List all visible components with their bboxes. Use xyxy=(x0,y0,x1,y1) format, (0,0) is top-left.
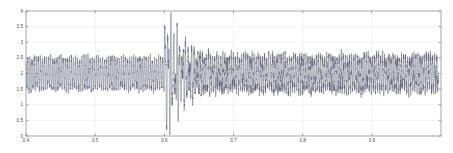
svg-text:1.5: 1.5 xyxy=(17,87,24,92)
svg-text:0.4: 0.4 xyxy=(23,138,30,143)
chart-container: 00.511.522.533.540.40.50.60.70.80.9 xyxy=(0,0,453,153)
svg-text:1: 1 xyxy=(20,102,23,107)
svg-text:0.5: 0.5 xyxy=(92,138,99,143)
svg-text:2.5: 2.5 xyxy=(17,55,24,60)
svg-text:3.5: 3.5 xyxy=(17,24,24,29)
grid-lines xyxy=(26,11,441,136)
svg-text:0.9: 0.9 xyxy=(369,138,376,143)
svg-text:4: 4 xyxy=(20,9,23,14)
svg-text:2: 2 xyxy=(20,71,23,76)
svg-text:0.7: 0.7 xyxy=(230,138,237,143)
svg-text:0.8: 0.8 xyxy=(299,138,306,143)
svg-text:3: 3 xyxy=(20,40,23,45)
signal-plot: 00.511.522.533.540.40.50.60.70.80.9 xyxy=(0,0,453,153)
tick-labels: 00.511.522.533.540.40.50.60.70.80.9 xyxy=(17,9,376,143)
svg-text:0.6: 0.6 xyxy=(161,138,168,143)
svg-text:0.5: 0.5 xyxy=(17,118,24,123)
